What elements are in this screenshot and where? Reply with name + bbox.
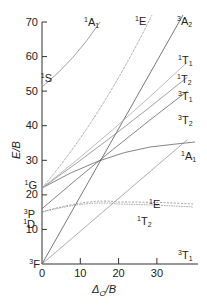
svg-text:3T1: 3T1 (178, 249, 193, 262)
svg-text:20: 20 (112, 267, 124, 279)
svg-text:3T1: 3T1 (178, 90, 193, 103)
svg-text:1A1: 1A1 (181, 150, 196, 163)
curve-1E-D (42, 201, 193, 212)
svg-text:40: 40 (26, 119, 38, 131)
x-tick-labels: 0 10 20 30 (39, 267, 163, 279)
svg-text:3A2: 3A2 (177, 15, 192, 28)
curve-3A2 (42, 15, 183, 264)
svg-text:3T2: 3T2 (178, 114, 193, 127)
svg-text:10: 10 (74, 267, 86, 279)
svg-text:30: 30 (26, 154, 38, 166)
svg-text:50: 50 (26, 85, 38, 97)
svg-text:60: 60 (26, 50, 38, 62)
curve-1A1-G (42, 142, 195, 188)
svg-text:70: 70 (26, 16, 38, 28)
energy-curves (42, 15, 195, 264)
svg-text:1E: 1E (149, 198, 160, 210)
svg-text:30: 30 (151, 267, 163, 279)
curve-3T1-P (42, 91, 188, 209)
svg-text:3F: 3F (29, 258, 40, 270)
svg-text:1A1: 1A1 (84, 16, 99, 29)
y-ticks (42, 22, 47, 229)
curve-1T2-G (42, 77, 188, 188)
y-axis-label: E/B (10, 141, 22, 159)
svg-text:1T1: 1T1 (178, 54, 193, 67)
y-tick-labels: 10 20 30 40 50 60 70 (26, 16, 38, 235)
state-labels: 1A1 1E 3A2 1T1 1T2 3T1 3T2 1A1 1E 1T2 3T… (84, 15, 196, 262)
x-ticks (80, 258, 157, 264)
curve-1T2-D (42, 203, 193, 212)
svg-text:1E: 1E (135, 15, 146, 27)
tanabe-sugano-diagram: 10 20 30 40 50 60 70 0 10 20 30 ΔO/B E/B (0, 0, 207, 305)
curve-1T1-G (42, 62, 188, 188)
x-axis-label: ΔO/B (91, 283, 116, 298)
svg-text:1T2: 1T2 (137, 215, 152, 228)
free-ion-labels: 3F 1D 3P 1G 1S (23, 72, 52, 270)
